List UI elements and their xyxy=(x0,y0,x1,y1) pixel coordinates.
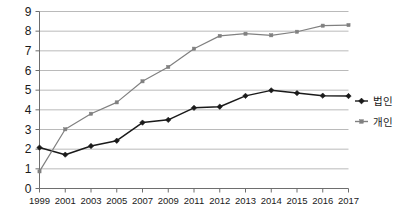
chart-background xyxy=(0,0,407,223)
x-tick-label-2012: 2012 xyxy=(209,195,230,206)
data-point-individual-2003 xyxy=(89,112,92,115)
y-tick-label-0: 0 xyxy=(25,182,32,196)
line-chart: 0123456789 19992001200320052007200920112… xyxy=(0,0,407,223)
y-tick-label-5: 5 xyxy=(25,83,32,97)
x-tick-label-2015: 2015 xyxy=(286,195,307,206)
y-tick-label-2: 2 xyxy=(25,142,32,156)
data-point-individual-2011 xyxy=(192,47,195,50)
y-tick-label-1: 1 xyxy=(25,162,32,176)
x-tick-label-1999: 1999 xyxy=(29,195,50,206)
x-tick-label-2011: 2011 xyxy=(184,195,204,206)
x-tick-label-2005: 2005 xyxy=(106,195,127,206)
x-tick-label-2001: 2001 xyxy=(55,195,76,206)
y-tick-label-9: 9 xyxy=(25,5,32,19)
data-point-individual-2007 xyxy=(141,80,144,83)
x-tick-label-2009: 2009 xyxy=(158,195,179,206)
y-tick-label-7: 7 xyxy=(25,44,32,58)
data-point-individual-2012 xyxy=(218,34,221,37)
y-tick-label-3: 3 xyxy=(25,123,32,137)
y-tick-label-8: 8 xyxy=(25,24,32,38)
legend-label-individual: 개인 xyxy=(373,116,393,128)
x-tick-label-2003: 2003 xyxy=(80,195,101,206)
x-tick-label-2013: 2013 xyxy=(235,195,256,206)
data-point-individual-1999 xyxy=(38,170,41,173)
data-point-individual-2009 xyxy=(167,65,170,68)
data-point-individual-2016 xyxy=(321,24,324,27)
data-point-individual-2013 xyxy=(244,32,247,35)
data-point-individual-2017 xyxy=(347,23,350,26)
legend-marker-individual xyxy=(360,120,364,124)
x-tick-label-2017: 2017 xyxy=(338,195,359,206)
data-point-individual-2014 xyxy=(270,34,273,37)
data-point-individual-2005 xyxy=(115,101,118,104)
y-tick-label-6: 6 xyxy=(25,64,32,78)
y-tick-label-4: 4 xyxy=(25,103,32,117)
x-tick-label-2016: 2016 xyxy=(312,195,333,206)
legend-label-corporate: 법인 xyxy=(373,95,393,107)
x-tick-label-2014: 2014 xyxy=(261,195,282,206)
x-tick-label-2007: 2007 xyxy=(132,195,153,206)
data-point-individual-2015 xyxy=(295,30,298,33)
data-point-individual-2001 xyxy=(64,128,67,131)
chart-canvas: 0123456789 19992001200320052007200920112… xyxy=(0,0,407,223)
